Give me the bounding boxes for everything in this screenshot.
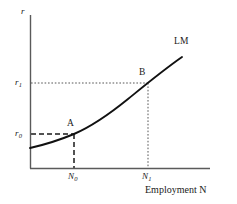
plot-area [0,0,237,204]
x-tick-label-n0: N0 [68,172,77,181]
lm-curve-figure: r r1 r0 N0 N1 A B LM Employment N [0,0,237,204]
x-tick-label-n1: N1 [142,172,151,181]
x-axis-title: Employment N [145,185,206,195]
y-tick-label-r0-subscript: 0 [19,132,22,139]
point-b-label: B [139,68,145,78]
point-a-label: A [67,119,74,129]
y-tick-label-r1: r1 [15,78,22,87]
lm-curve-label: LM [174,37,189,47]
y-tick-label-r0: r0 [15,129,22,138]
y-tick-label-r1-base: r [15,77,19,87]
y-axis-label: r [21,7,25,16]
y-tick-label-r0-base: r [15,128,19,138]
x-tick-label-n1-subscript: 1 [148,175,151,182]
y-tick-label-r1-subscript: 1 [19,81,22,88]
lm-curve [30,57,182,148]
x-tick-label-n0-subscript: 0 [74,175,77,182]
